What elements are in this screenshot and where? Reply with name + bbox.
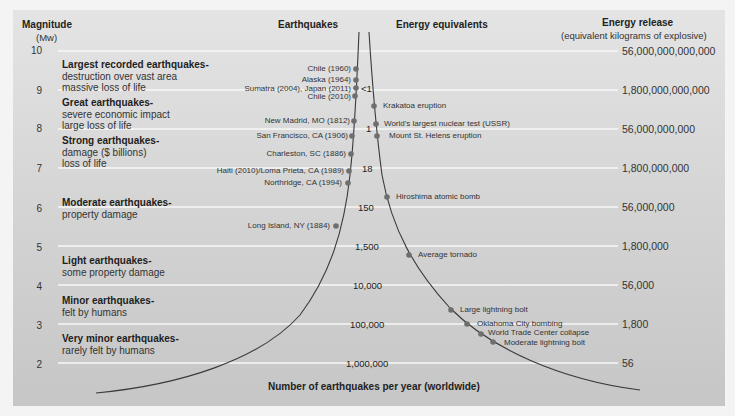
energy-release-value: 1,800,000,000,000	[622, 85, 710, 96]
x-axis-label: Number of earthquakes per year (worldwid…	[268, 382, 480, 392]
energy-release-value: 1,800,000,000	[622, 163, 689, 174]
count-label: 1,500	[355, 242, 379, 252]
category-line: property damage	[62, 210, 138, 220]
earthquake-label: Chile (2010)	[307, 93, 351, 101]
count-label: 1,000,000	[346, 359, 388, 369]
category-line: large loss of life	[62, 121, 131, 131]
category-line: massive loss of life	[62, 83, 146, 93]
earthquake-label: Long Island, NY (1884)	[248, 222, 330, 230]
count-label: 10,000	[353, 281, 382, 291]
energy-equivalents-header: Energy equivalents	[396, 20, 488, 30]
count-label: 100,000	[350, 320, 384, 330]
category-line: some property damage	[62, 268, 165, 278]
category-title: Very minor earthquakes-	[62, 334, 179, 344]
energy-equivalent-label: Average tornado	[418, 251, 477, 259]
earthquake-label: Haiti (2010)/Loma Prieta, CA (1989)	[217, 167, 344, 175]
category-title: Largest recorded earthquakes-	[62, 60, 209, 70]
count-label: <1	[361, 84, 372, 94]
category-line: felt by humans	[62, 308, 127, 318]
magnitude-tick: 10	[22, 46, 42, 56]
category-line: damage ($ billions)	[62, 148, 147, 158]
category-line: loss of life	[62, 159, 106, 169]
energy-equivalent-label: Moderate lightning bolt	[504, 339, 585, 347]
energy-equivalent-label: Oklahoma City bombing	[477, 320, 562, 328]
category-line: severe economic impact	[62, 110, 170, 120]
energy-equivalent-label: Mount St. Helens eruption	[389, 132, 482, 140]
energy-equivalent-label: Hiroshima atomic bomb	[396, 193, 480, 201]
magnitude-unit: (Mw)	[36, 33, 57, 43]
energy-release-header: Energy release	[602, 18, 673, 28]
energy-release-value: 56,000	[622, 280, 654, 291]
earthquake-label: San Francisco, CA (1906)	[256, 132, 348, 140]
count-label: 1	[366, 124, 371, 134]
earthquake-label: Charleston, SC (1886)	[266, 150, 346, 158]
magnitude-tick: 4	[22, 282, 42, 292]
earthquake-label: Chile (1960)	[307, 65, 351, 73]
earthquake-label: Alaska (1964)	[302, 76, 351, 84]
magnitude-tick: 8	[22, 124, 42, 134]
earthquake-label: Northridge, CA (1994)	[264, 179, 342, 187]
magnitude-header: Magnitude	[22, 20, 72, 30]
category-title: Minor earthquakes-	[62, 296, 154, 306]
magnitude-tick: 2	[22, 360, 42, 370]
energy-release-value: 56,000,000,000	[622, 124, 695, 135]
energy-release-value: 56,000,000	[622, 202, 675, 213]
count-label: 18	[362, 164, 373, 174]
magnitude-tick: 5	[22, 243, 42, 253]
category-title: Light earthquakes-	[62, 256, 151, 266]
category-title: Moderate earthquakes-	[62, 198, 171, 208]
earthquakes-header: Earthquakes	[278, 20, 338, 30]
count-label: 150	[358, 203, 374, 213]
magnitude-tick: 7	[22, 164, 42, 174]
energy-release-value: 56,000,000,000,000	[622, 46, 715, 57]
earthquake-label: New Madrid, MO (1812)	[265, 117, 350, 125]
magnitude-tick: 6	[22, 204, 42, 214]
category-line: rarely felt by humans	[62, 346, 155, 356]
energy-equivalent-label: Large lightning bolt	[460, 306, 528, 314]
magnitude-tick: 9	[22, 86, 42, 96]
energy-release-value: 1,800,000	[622, 241, 669, 252]
category-title: Great earthquakes-	[62, 98, 153, 108]
energy-equivalent-label: World Trade Center collapse	[488, 329, 589, 337]
energy-release-value: 1,800	[622, 319, 648, 330]
energy-release-unit: (equivalent kilograms of explosive)	[561, 31, 707, 41]
energy-release-value: 56	[622, 358, 634, 369]
category-line: destruction over vast area	[62, 72, 177, 82]
category-title: Strong earthquakes-	[62, 136, 159, 146]
magnitude-tick: 3	[22, 321, 42, 331]
energy-equivalent-label: Krakatoa eruption	[383, 102, 446, 110]
energy-equivalent-label: World's largest nuclear test (USSR)	[384, 120, 510, 128]
